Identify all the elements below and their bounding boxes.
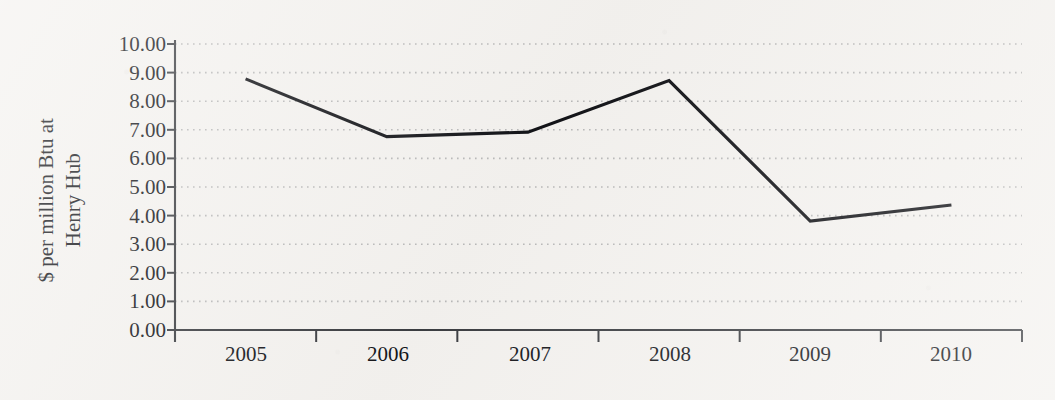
x-tick-label: 2009 (789, 342, 831, 367)
x-tick-label: 2008 (649, 342, 691, 367)
x-tick-label: 2010 (930, 342, 972, 367)
x-axis-tick-labels: 2005 2006 2007 2008 2009 2010 (0, 0, 1055, 400)
line-chart-figure: $ per million Btu at Henry Hub 10.00 9.0… (0, 0, 1055, 400)
x-tick-label: 2005 (225, 342, 267, 367)
x-tick-label: 2007 (509, 342, 551, 367)
x-tick-label: 2006 (367, 342, 409, 367)
